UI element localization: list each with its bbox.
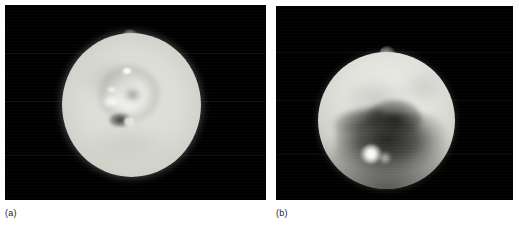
panel-b-image bbox=[276, 6, 513, 200]
surface-mottling-right bbox=[400, 70, 446, 104]
figure-two-panel-moon-images: (a) (b) bbox=[0, 0, 519, 227]
upper-bright-point bbox=[123, 68, 131, 74]
surface-shading-lower bbox=[83, 125, 173, 165]
moon-disk-b bbox=[318, 52, 455, 189]
panel-a-image bbox=[5, 5, 266, 200]
bright-volcanic-spot bbox=[360, 144, 382, 164]
mid-dark-patch bbox=[123, 87, 142, 103]
secondary-bright-point bbox=[108, 87, 115, 92]
dark-spot-highlight bbox=[124, 117, 134, 126]
caption-panel-b: (b) bbox=[276, 208, 288, 218]
caption-panel-a: (a) bbox=[5, 208, 17, 218]
central-bright-patch bbox=[101, 95, 121, 108]
